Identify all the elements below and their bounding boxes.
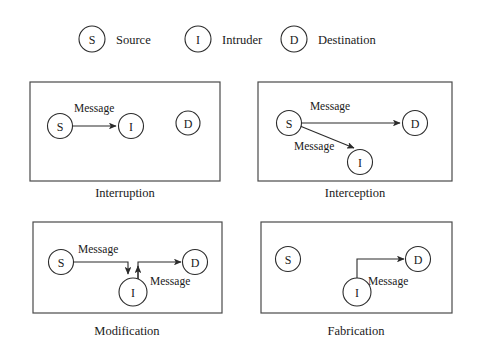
intruder-node-letter: I [196,33,200,47]
panel-caption-interruption: Interruption [95,186,155,200]
edge-label-message-out: Message [150,275,190,288]
node-destination-letter: D [191,256,200,270]
edge-label-message-to-destination: Message [310,100,350,113]
legend-label-source: Source [116,33,151,47]
node-destination-letter: D [414,253,423,267]
node-intruder-letter: I [358,156,362,170]
edge-label-message-1: Message [74,102,114,115]
node-intruder-letter: I [355,286,359,300]
destination-node-letter: D [290,33,299,47]
node-source-letter: S [286,117,293,131]
panel-caption-interception: Interception [325,186,386,200]
node-intruder-letter: I [131,286,135,300]
edge-label-message-in: Message [78,243,118,256]
edge-label-message-to-intruder: Message [294,140,334,153]
panel-caption-modification: Modification [94,324,160,338]
legend-label-intruder: Intruder [222,33,263,47]
node-source-letter: S [285,253,292,267]
node-source-letter: S [58,256,65,270]
node-source-letter: S [57,120,64,134]
panel-caption-fabrication: Fabrication [328,324,386,338]
legend-label-destination: Destination [318,33,376,47]
attack-types-figure: S Source I Intruder D Destination Messag… [0,0,482,356]
node-destination-letter: D [411,117,420,131]
edge-label-message: Message [368,275,408,288]
node-intruder-letter: I [129,120,133,134]
source-node-letter: S [89,33,96,47]
node-destination-letter: D [184,117,193,131]
